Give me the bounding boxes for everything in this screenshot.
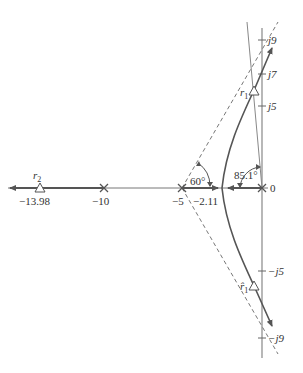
departure-line: [247, 22, 262, 188]
label-j9: j9: [266, 34, 277, 46]
label-zero: 0: [270, 182, 276, 194]
label-neg-j9: −j9: [268, 332, 284, 344]
label-angle-60: 60°: [190, 175, 205, 187]
root-locus-diagram: r2 −13.98 −10 −5 −2.11 0 60° 85.1° j9 j7…: [0, 0, 303, 373]
root-r1-marker: [249, 86, 259, 95]
label-root-r1: r1: [240, 86, 248, 101]
root-r1-conj-marker: [249, 281, 259, 290]
label-neg-j5: −j5: [268, 265, 284, 277]
label-neg10: −10: [92, 195, 110, 207]
asymptote-upper: [182, 22, 278, 188]
label-j7: j7: [266, 68, 277, 80]
label-neg5: −5: [172, 195, 184, 207]
label-root-r2: r2: [33, 169, 41, 184]
label-neg2-11: −2.11: [193, 195, 218, 207]
label-j5: j5: [266, 100, 277, 112]
label-neg13-98: −13.98: [19, 195, 50, 207]
label-root-r1-conj: r̂1: [240, 280, 248, 295]
angle-arc-60-arrowhead: [207, 182, 213, 187]
label-angle-85: 85.1°: [234, 169, 258, 181]
locus-branch-lower: [222, 188, 272, 326]
locus-branch-upper: [222, 48, 272, 188]
